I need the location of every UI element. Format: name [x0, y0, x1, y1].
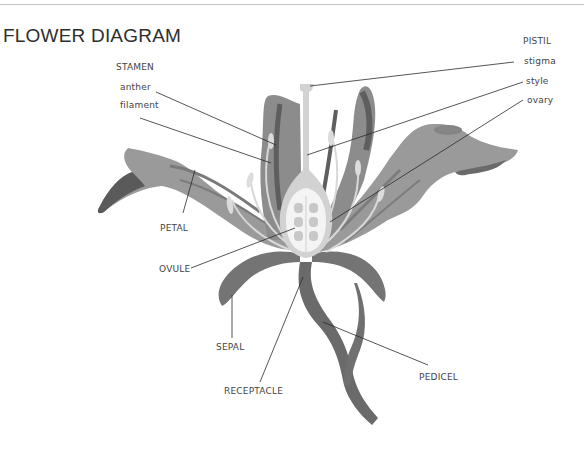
label-ovule: OVULE	[159, 264, 190, 274]
label-pistil: PISTIL	[523, 36, 551, 46]
pedicel-stem	[299, 262, 378, 425]
label-filament: filament	[120, 100, 159, 110]
label-stigma: stigma	[524, 56, 556, 66]
label-sepal: SEPAL	[216, 342, 244, 352]
label-pedicel: PEDICEL	[419, 372, 458, 382]
label-style: style	[526, 76, 549, 86]
label-anther: anther	[120, 82, 151, 92]
label-petal: PETAL	[160, 223, 188, 233]
label-receptacle: RECEPTACLE	[224, 386, 283, 396]
label-stamen: STAMEN	[116, 62, 154, 72]
label-ovary: ovary	[527, 95, 553, 105]
flower-illustration	[0, 0, 584, 452]
